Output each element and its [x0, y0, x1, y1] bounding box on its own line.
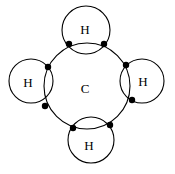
electron-dot [107, 122, 113, 128]
hydrogen-label-left: H [23, 75, 32, 90]
methane-bonding-diagram: C H H H H [0, 0, 175, 174]
electron-dot [70, 125, 76, 131]
electron-dot [66, 41, 72, 47]
electron-dot [45, 64, 51, 70]
hydrogen-label-bottom: H [84, 138, 93, 153]
electron-dot [101, 41, 107, 47]
hydrogen-label-top: H [80, 22, 89, 37]
electron-dot [129, 97, 135, 103]
hydrogen-label-right: H [138, 74, 147, 89]
carbon-label: C [81, 81, 90, 96]
electron-dot [42, 103, 48, 109]
electron-dot [123, 62, 129, 68]
